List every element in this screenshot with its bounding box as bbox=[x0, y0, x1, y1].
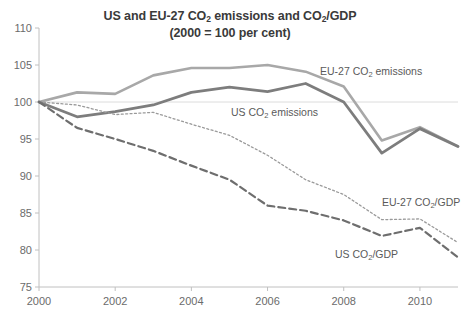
y-tick-label: 100 bbox=[2, 96, 32, 108]
y-tick-label: 95 bbox=[2, 133, 32, 145]
chart-plot-area bbox=[0, 0, 464, 327]
series-label-2: EU-27 CO2/GDP bbox=[382, 196, 460, 208]
x-tick-label: 2000 bbox=[15, 295, 63, 307]
y-tick-label: 85 bbox=[2, 207, 32, 219]
y-tick-label: 75 bbox=[2, 281, 32, 293]
y-tick-label: 110 bbox=[2, 22, 32, 34]
series-label-1: US CO2 emissions bbox=[231, 106, 318, 118]
series-line-3 bbox=[39, 102, 458, 257]
x-tick-label: 2002 bbox=[91, 295, 139, 307]
y-tick-label: 105 bbox=[2, 59, 32, 71]
series-line-2 bbox=[39, 102, 458, 243]
y-tick-label: 80 bbox=[2, 244, 32, 256]
series-label-3: US CO2/GDP bbox=[335, 248, 398, 260]
x-tick-label: 2004 bbox=[167, 295, 215, 307]
chart-container: US and EU-27 CO2 emissions and CO2/GDP (… bbox=[0, 0, 464, 327]
y-tick-label: 90 bbox=[2, 170, 32, 182]
series-label-0: EU-27 CO2 emissions bbox=[320, 65, 422, 77]
x-tick-label: 2008 bbox=[320, 295, 368, 307]
x-tick-label: 2006 bbox=[244, 295, 292, 307]
x-tick-label: 2010 bbox=[396, 295, 444, 307]
